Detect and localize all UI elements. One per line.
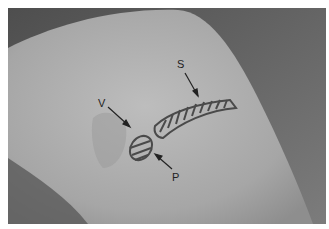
label-p: P [172,171,179,183]
photo: S V P [8,8,326,224]
label-s: S [177,58,184,70]
label-v: V [98,97,105,109]
arm-photo-illustration [8,8,326,224]
